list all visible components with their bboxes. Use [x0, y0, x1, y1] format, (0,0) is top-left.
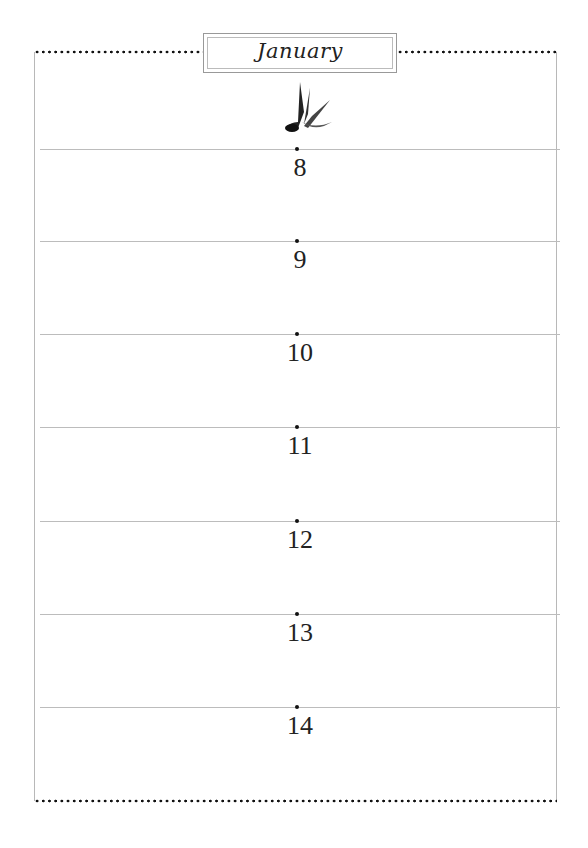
day-row[interactable]: 8	[40, 149, 560, 242]
day-row[interactable]: 9	[40, 241, 560, 334]
day-divider	[40, 241, 560, 242]
day-divider	[40, 427, 560, 428]
day-number: 12	[40, 525, 560, 555]
divider-dot	[295, 147, 299, 151]
divider-dot	[295, 519, 299, 523]
day-row[interactable]: 13	[40, 614, 560, 707]
month-label-box: January	[203, 33, 397, 73]
divider-dot	[295, 425, 299, 429]
day-row[interactable]: 12	[40, 521, 560, 614]
divider-dot	[295, 239, 299, 243]
day-divider	[40, 707, 560, 708]
day-number: 10	[40, 338, 560, 368]
day-row[interactable]: 10	[40, 334, 560, 427]
divider-dot	[295, 612, 299, 616]
day-divider	[40, 149, 560, 150]
swallow-bird-icon	[278, 78, 334, 138]
day-row[interactable]: 11	[40, 427, 560, 520]
divider-dot	[295, 332, 299, 336]
day-divider	[40, 614, 560, 615]
day-number: 9	[40, 245, 560, 275]
dotted-border-top-left	[34, 50, 204, 54]
day-number: 13	[40, 618, 560, 648]
dotted-border-top-right	[397, 50, 557, 54]
day-divider	[40, 521, 560, 522]
divider-dot	[295, 705, 299, 709]
month-title: January	[204, 39, 396, 63]
day-divider	[40, 334, 560, 335]
day-number: 14	[40, 711, 560, 741]
day-row[interactable]: 14	[40, 707, 560, 800]
day-number: 8	[40, 153, 560, 183]
day-number: 11	[40, 431, 560, 461]
